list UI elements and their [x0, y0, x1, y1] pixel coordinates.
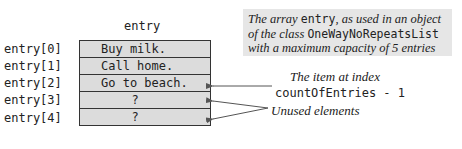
arrows [0, 0, 462, 149]
arrow-unused-4 [213, 108, 268, 119]
arrow-unused-3 [213, 101, 268, 108]
